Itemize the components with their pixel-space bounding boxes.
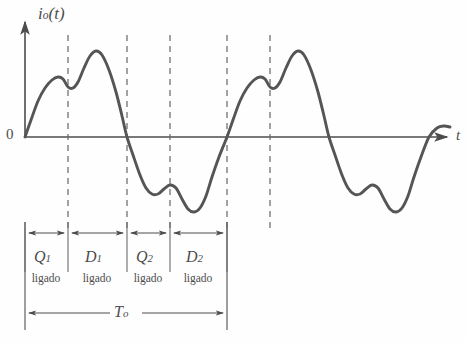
device-index: 2 [198, 252, 203, 264]
interval-device-label-D1: D1 [85, 248, 102, 266]
device-letter: Q [34, 248, 46, 265]
device-letter: Q [136, 248, 148, 265]
period-label: To [114, 303, 128, 321]
device-index: 2 [148, 252, 153, 264]
device-index: 1 [46, 252, 51, 264]
interval-state-label-D2: ligado [176, 272, 220, 284]
device-letter: D [85, 248, 97, 265]
waveform-curve [25, 51, 450, 212]
device-letter: D [186, 248, 198, 265]
period-label-main: T [114, 303, 123, 320]
device-index: 1 [97, 252, 102, 264]
period-label-sub: o [123, 307, 128, 319]
dashed-separator-lines [68, 35, 270, 228]
waveform-figure: io(t) 0 t Q1ligadoD1ligadoQ2ligadoD2liga… [0, 0, 466, 343]
interval-device-label-D2: D2 [186, 248, 203, 266]
interval-state-label-D1: ligado [75, 272, 119, 284]
interval-device-label-Q2: Q2 [136, 248, 153, 266]
x-axis-label: t [456, 127, 460, 144]
figure-canvas [0, 0, 466, 343]
y-axis-label: io(t) [38, 4, 65, 24]
interval-device-label-Q1: Q1 [34, 248, 51, 266]
origin-label: 0 [6, 126, 14, 143]
interval-state-label-Q1: ligado [24, 272, 68, 284]
y-axis-label-arg: (t) [49, 4, 65, 23]
interval-state-label-Q2: ligado [126, 272, 170, 284]
